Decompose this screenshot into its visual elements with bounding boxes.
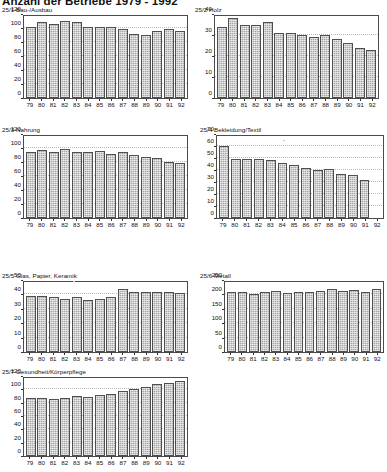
x-tick-label: 80 [36, 355, 48, 363]
x-tick-label: 91 [164, 355, 176, 363]
y-tick-label: 50 [14, 272, 21, 278]
bar-79 [26, 296, 36, 352]
bar-81 [240, 25, 250, 99]
bar-slot [371, 282, 382, 352]
x-tick-label: 90 [152, 459, 164, 467]
x-tick-label: 79 [24, 101, 36, 109]
y-tick-label: 40 [14, 182, 21, 188]
bar-85 [95, 151, 105, 218]
bar-83 [72, 22, 82, 98]
bar-slot [175, 282, 187, 352]
bar-86 [305, 292, 314, 352]
x-axis-glas-papier-keramik: 7980818283848586878889909192 [23, 355, 188, 363]
bar-slot [37, 136, 49, 218]
x-axis-metall: 7980818283848586878889909192 [224, 355, 384, 363]
x-tick-label: 89 [140, 355, 152, 363]
bar-81 [49, 297, 59, 352]
y-tick-label: 50 [207, 150, 214, 156]
bar-slot [129, 16, 141, 98]
x-tick-label: 87 [117, 101, 129, 109]
x-tick-label: 79 [24, 459, 36, 467]
x-axis-nahrung: 7980818283848586878889909192 [23, 221, 188, 229]
x-tick-label: 86 [296, 101, 308, 109]
bar-90 [152, 384, 162, 456]
x-tick-label: 81 [248, 355, 259, 363]
bar-slot [337, 282, 348, 352]
bar-80 [37, 22, 47, 98]
x-tick-label: 85 [288, 221, 300, 229]
x-tick-label: 80 [236, 355, 247, 363]
plot-area-metall [224, 281, 384, 353]
y-tick-mark [21, 14, 23, 15]
y-axis-bekleidung-textil: 010203040506070 [200, 135, 216, 219]
bar-91 [164, 162, 174, 218]
chart-title-bau-ausbau: 25/1 Bau-/Ausbau [2, 6, 52, 13]
y-tick-mark [21, 309, 23, 310]
bar-85 [95, 299, 105, 352]
y-axis-gesundheit-koerperpflege: 020406080100120 [2, 377, 23, 457]
x-tick-label: 83 [262, 101, 274, 109]
bar-83 [72, 297, 82, 352]
y-tick-label: 0 [18, 210, 21, 216]
y-tick-mark [214, 146, 216, 147]
y-tick-label: 80 [14, 154, 21, 160]
x-tick-label: 86 [105, 459, 117, 467]
bar-slot [48, 136, 60, 218]
bar-83 [271, 291, 280, 352]
bar-79 [227, 292, 236, 352]
y-tick-label: 70 [207, 126, 214, 132]
x-tick-label: 91 [164, 221, 176, 229]
y-tick-mark [21, 323, 23, 324]
bar-slot [297, 16, 309, 98]
scan-artifact [73, 281, 75, 282]
bar-84 [83, 27, 93, 98]
x-tick-label: 86 [105, 101, 117, 109]
x-tick-label: 92 [371, 221, 383, 229]
bar-84 [278, 163, 288, 218]
bar-90 [348, 175, 358, 218]
bar-slot [129, 282, 141, 352]
bar-89 [141, 157, 151, 218]
plot-area-gesundheit-koerperpflege [23, 377, 188, 457]
x-tick-label: 84 [276, 221, 288, 229]
x-tick-label: 83 [71, 459, 83, 467]
x-axis-bekleidung-textil: 7980818283848586878889909192 [216, 221, 384, 229]
bar-90 [152, 158, 162, 218]
x-tick-label: 79 [215, 101, 227, 109]
bar-89 [338, 291, 347, 352]
y-tick-label: 0 [18, 90, 21, 96]
bar-81 [249, 294, 258, 352]
bar-slot [152, 16, 164, 98]
bar-slot [343, 16, 355, 98]
bar-slot [37, 16, 49, 98]
bar-slot [285, 16, 297, 98]
bar-90 [343, 43, 353, 98]
x-tick-label: 90 [152, 355, 164, 363]
bar-slot [83, 282, 95, 352]
x-tick-label: 89 [331, 101, 343, 109]
bar-slot [83, 136, 95, 218]
bar-80 [37, 296, 47, 352]
y-tick-label: 10 [14, 330, 21, 336]
bar-82 [60, 149, 70, 218]
x-tick-label: 91 [164, 101, 176, 109]
x-tick-label: 88 [129, 101, 141, 109]
bar-91 [360, 180, 370, 218]
bar-90 [349, 290, 358, 352]
bar-slot [347, 136, 359, 218]
bar-series [24, 282, 187, 352]
x-tick-label: 87 [117, 355, 129, 363]
y-tick-mark [214, 206, 216, 207]
x-tick-label: 85 [94, 459, 106, 467]
bar-85 [289, 165, 299, 218]
y-tick-mark [21, 416, 23, 417]
bar-88 [129, 34, 139, 98]
bar-79 [26, 398, 36, 456]
bar-80 [238, 292, 247, 352]
x-tick-label: 80 [36, 101, 48, 109]
bar-slot [83, 16, 95, 98]
bar-85 [286, 33, 296, 98]
bar-86 [106, 27, 116, 98]
y-tick-label: 20 [14, 435, 21, 441]
plot-area-bekleidung-textil [216, 135, 384, 219]
